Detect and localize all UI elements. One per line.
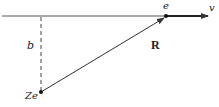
position-vector-label: R xyxy=(151,39,160,51)
electron-label: e xyxy=(163,1,169,11)
velocity-label: v xyxy=(209,3,215,13)
diagram-canvas: e v b R Ze xyxy=(0,0,219,107)
nucleus-point xyxy=(39,90,43,94)
impact-parameter-label: b xyxy=(27,40,34,51)
nucleus-label: Ze xyxy=(25,91,38,101)
position-vector-arrow xyxy=(41,18,164,92)
electron-point xyxy=(164,14,168,18)
